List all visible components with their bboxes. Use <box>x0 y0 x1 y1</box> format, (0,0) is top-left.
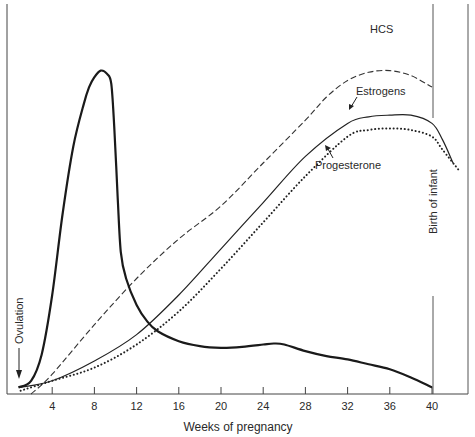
progesterone-label: Progesterone <box>315 159 381 171</box>
x-tick-label: 28 <box>299 400 311 412</box>
chart-svg: Birth of infant 481216202428323640 Weeks… <box>0 0 475 437</box>
x-tick-label: 8 <box>91 400 97 412</box>
x-tick-label: 20 <box>215 400 227 412</box>
birth-label: Birth of infant <box>427 169 439 234</box>
x-axis-label: Weeks of pregnancy <box>183 420 292 434</box>
hcs-curve <box>31 70 432 394</box>
estrogens-label: Estrogens <box>356 85 406 97</box>
x-ticks: 481216202428323640 <box>49 387 438 412</box>
estrogens-arrowhead-icon <box>349 104 354 110</box>
x-tick-label: 16 <box>173 400 185 412</box>
progesterone-arrowhead-icon <box>325 145 331 151</box>
x-tick-label: 4 <box>49 400 55 412</box>
ovulation-label: Ovulation <box>13 298 25 344</box>
x-tick-label: 32 <box>341 400 353 412</box>
x-tick-label: 40 <box>426 400 438 412</box>
ovulation-arrow-down-icon <box>16 370 22 379</box>
x-tick-label: 24 <box>257 400 269 412</box>
hcg-curve <box>18 71 432 388</box>
hcs-label: HCS <box>370 23 393 35</box>
x-tick-label: 12 <box>130 400 142 412</box>
x-tick-label: 36 <box>384 400 396 412</box>
progesterone-curve <box>21 128 459 390</box>
hormone-levels-chart: Birth of infant 481216202428323640 Weeks… <box>0 0 475 437</box>
